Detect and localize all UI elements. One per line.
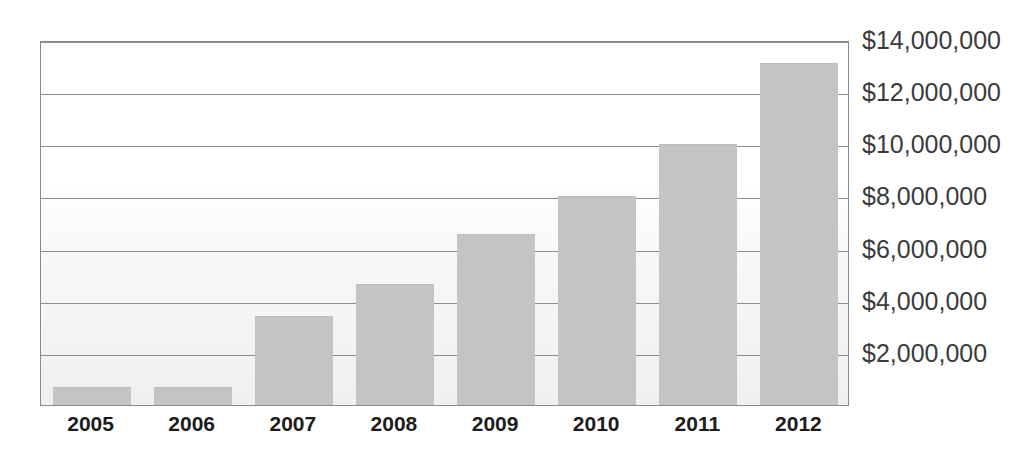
bar-2010 [558, 196, 636, 405]
bar-chart: $2,000,000$4,000,000$6,000,000$8,000,000… [0, 0, 1021, 464]
bar-2008 [356, 284, 434, 405]
x-axis: 20052006200720082009201020112012 [40, 412, 849, 446]
plot-area [40, 41, 849, 406]
x-axis-tick-label-2009: 2009 [445, 412, 546, 435]
y-axis-tick-label: $2,000,000 [862, 341, 987, 366]
y-axis-tick-label: $4,000,000 [862, 289, 987, 314]
y-axis-tick-label: $14,000,000 [862, 28, 1001, 53]
bar-2005 [53, 387, 131, 405]
bars-group [41, 42, 848, 405]
x-axis-tick-label-2006: 2006 [141, 412, 242, 435]
y-axis: $2,000,000$4,000,000$6,000,000$8,000,000… [862, 0, 1021, 464]
y-axis-tick-label: $12,000,000 [862, 80, 1001, 105]
x-axis-tick-label-2005: 2005 [40, 412, 141, 435]
y-axis-tick-label: $6,000,000 [862, 237, 987, 262]
bar-2009 [457, 234, 535, 405]
bar-2012 [760, 63, 838, 405]
bar-2006 [154, 387, 232, 405]
bar-2011 [659, 144, 737, 405]
x-axis-tick-label-2010: 2010 [546, 412, 647, 435]
x-axis-tick-label-2011: 2011 [647, 412, 748, 435]
x-axis-tick-label-2008: 2008 [343, 412, 444, 435]
y-axis-tick-label: $10,000,000 [862, 132, 1001, 157]
x-axis-tick-label-2012: 2012 [748, 412, 849, 435]
bar-2007 [255, 316, 333, 405]
x-axis-tick-label-2007: 2007 [242, 412, 343, 435]
y-axis-tick-label: $8,000,000 [862, 184, 987, 209]
